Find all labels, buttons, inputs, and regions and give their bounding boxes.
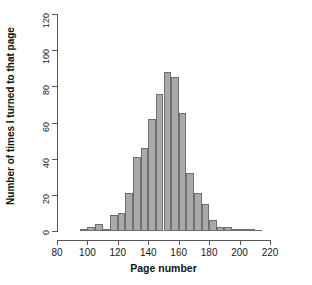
x-axis-tick-label: 180 — [201, 247, 218, 258]
y-axis-tick-label-text: 120 — [41, 13, 51, 28]
y-axis-tick-label: 60 — [0, 118, 48, 128]
histogram-bar — [125, 193, 133, 231]
histogram-bar — [87, 227, 95, 231]
histogram-bar — [247, 229, 255, 231]
plot-area — [57, 14, 270, 231]
x-axis-tick — [118, 240, 119, 245]
x-axis-tick-label: 160 — [170, 247, 187, 258]
y-axis-tick — [52, 231, 57, 232]
histogram-bar — [148, 119, 156, 231]
histogram-bar — [171, 77, 179, 231]
histogram-bar — [110, 215, 118, 231]
x-axis-tick — [270, 240, 271, 245]
y-axis-tick-label-text: 40 — [41, 158, 51, 168]
x-axis-tick-label: 200 — [231, 247, 248, 258]
y-axis-tick-label: 80 — [0, 81, 48, 91]
y-axis-tick-label-text: 100 — [41, 49, 51, 64]
histogram-bar — [179, 113, 187, 231]
x-axis-tick-label: 120 — [110, 247, 127, 258]
x-axis-tick — [148, 240, 149, 245]
y-axis-tick-label-text: 20 — [41, 194, 51, 204]
y-axis-tick-label: 40 — [0, 154, 48, 164]
histogram-bar — [224, 227, 232, 231]
x-axis-tick — [57, 240, 58, 245]
x-axis-tick — [209, 240, 210, 245]
histogram-bar — [103, 229, 111, 231]
y-axis-tick-label: 120 — [0, 9, 48, 19]
histogram-bar — [95, 224, 103, 231]
y-axis-tick-label: 0 — [0, 226, 48, 236]
histogram-bar — [194, 193, 202, 231]
histogram-bar — [240, 229, 248, 231]
x-axis-tick — [240, 240, 241, 245]
y-axis-tick-label-text: 0 — [41, 230, 51, 235]
x-axis-tick-label: 80 — [51, 247, 62, 258]
histogram-bar — [209, 220, 217, 231]
x-axis-tick — [87, 240, 88, 245]
x-axis-tick — [179, 240, 180, 245]
y-axis-tick-label: 20 — [0, 190, 48, 200]
histogram-chart: Number of times I turned to that page 02… — [0, 0, 312, 285]
histogram-bar — [80, 229, 88, 231]
histogram-bar — [118, 213, 126, 231]
x-axis-title: Page number — [57, 262, 270, 274]
y-axis-tick-label-text: 60 — [41, 122, 51, 132]
histogram-bar — [232, 229, 240, 231]
histogram-bar — [186, 173, 194, 231]
histogram-bar — [141, 148, 149, 231]
histogram-bar — [255, 230, 263, 231]
histogram-bar — [202, 204, 210, 231]
histogram-bar — [217, 227, 225, 231]
histogram-bar — [156, 94, 164, 231]
histogram-bar — [164, 72, 172, 231]
x-axis-tick-label: 220 — [262, 247, 279, 258]
y-axis-tick-label: 100 — [0, 45, 48, 55]
y-axis-tick-label-text: 80 — [41, 85, 51, 95]
x-axis-tick-label: 100 — [79, 247, 96, 258]
histogram-bar — [133, 157, 141, 231]
x-axis-tick-label: 140 — [140, 247, 157, 258]
x-axis-line — [57, 240, 270, 241]
